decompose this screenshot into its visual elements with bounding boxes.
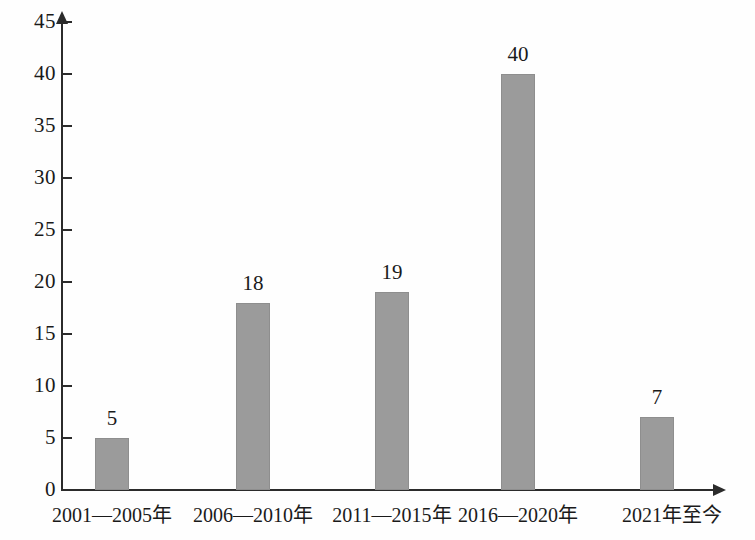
bar-value-label: 19 [362,262,422,283]
y-axis-tick-label: 30 [0,167,56,188]
y-axis-tick-label-text: 25 [12,219,56,240]
bar [640,417,674,490]
bar-value-label: 18 [223,273,283,294]
y-axis-tick-label-text: 0 [12,479,56,500]
y-axis-tick-label: 45 [0,11,56,32]
bar [95,438,129,490]
plot-area: 51819407 [61,22,716,490]
y-axis-tick-label: 15 [0,323,56,344]
y-axis-tick-label: 40 [0,63,56,84]
bar-value-label: 7 [627,387,687,408]
y-axis-tick-label: 35 [0,115,56,136]
bar-chart: 051015202530354045 51819407 2001—2005年20… [0,0,755,540]
y-axis-tick-label: 5 [0,427,56,448]
bar-value-label: 5 [82,408,142,429]
y-axis-tick-label-text: 15 [12,323,56,344]
y-axis-tick-label-text: 35 [12,115,56,136]
y-axis-tick-label-text: 40 [12,63,56,84]
bar-value-label: 40 [488,44,548,65]
x-axis-category-label: 2001—2005年 [52,503,172,527]
y-axis-tick-label: 0 [0,479,56,500]
y-axis-tick-label-text: 45 [12,11,56,32]
y-axis-tick-label-text: 20 [12,271,56,292]
bar [501,74,535,490]
x-axis-category-label: 2006—2010年 [193,503,313,527]
x-axis-category-label: 2021年至今 [622,503,722,527]
y-axis-tick-label-text: 30 [12,167,56,188]
bar [236,303,270,490]
y-axis-tick-label: 10 [0,375,56,396]
y-axis-tick-label-text: 5 [12,427,56,448]
x-axis-category-label: 2011—2015年 [332,503,451,527]
y-axis-tick-label: 20 [0,271,56,292]
bar [375,292,409,490]
x-axis-category-label: 2016—2020年 [458,503,578,527]
y-axis-tick-label-text: 10 [12,375,56,396]
y-axis-tick-label: 25 [0,219,56,240]
